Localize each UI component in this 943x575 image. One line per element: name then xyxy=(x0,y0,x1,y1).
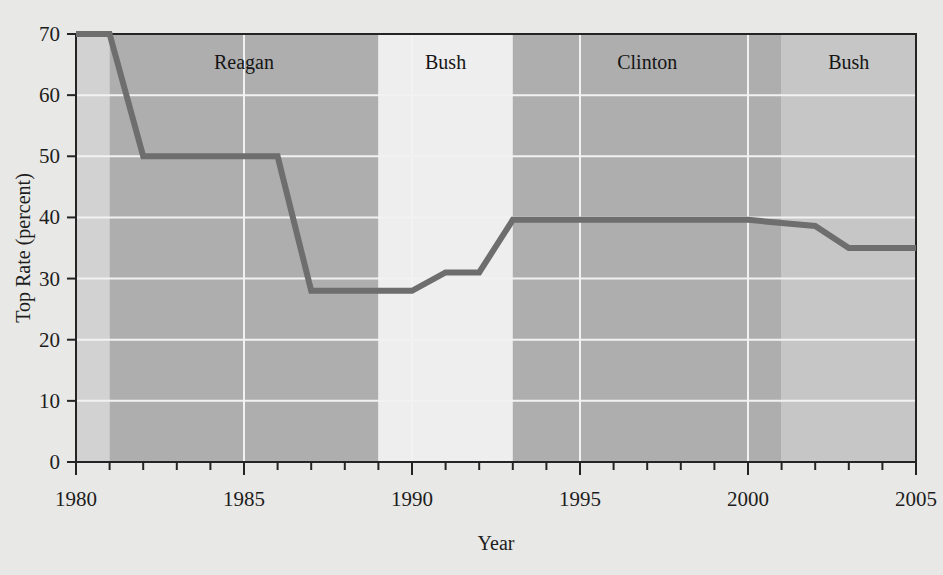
band-label-bush-4: Bush xyxy=(828,51,869,73)
y-tick-label-20: 20 xyxy=(39,328,60,352)
x-tick-label-1985: 1985 xyxy=(223,487,265,511)
x-axis-title: Year xyxy=(478,532,515,554)
top-tax-rate-line-chart: ReaganBushClintonBush 010203040506070 19… xyxy=(0,0,943,575)
band-label-bush-2: Bush xyxy=(425,51,466,73)
band-label-reagan-1: Reagan xyxy=(214,51,274,74)
x-tick-label-1995: 1995 xyxy=(559,487,601,511)
x-tick-label-2000: 2000 xyxy=(727,487,769,511)
y-tick-label-40: 40 xyxy=(39,205,60,229)
y-tick-label-30: 30 xyxy=(39,267,60,291)
y-axis-title: Top Rate (percent) xyxy=(12,173,35,323)
y-tick-label-50: 50 xyxy=(39,144,60,168)
y-tick-label-70: 70 xyxy=(39,22,60,46)
y-tick-label-0: 0 xyxy=(50,450,61,474)
y-tick-label-10: 10 xyxy=(39,389,60,413)
chart-figure: ReaganBushClintonBush 010203040506070 19… xyxy=(0,0,943,575)
x-tick-label-1980: 1980 xyxy=(55,487,97,511)
term-band-unlabeled-0 xyxy=(76,34,110,462)
x-tick-label-2005: 2005 xyxy=(895,487,937,511)
term-band-clinton-3 xyxy=(513,34,782,462)
y-tick-label-60: 60 xyxy=(39,83,60,107)
x-tick-label-1990: 1990 xyxy=(391,487,433,511)
band-label-clinton-3: Clinton xyxy=(617,51,677,73)
